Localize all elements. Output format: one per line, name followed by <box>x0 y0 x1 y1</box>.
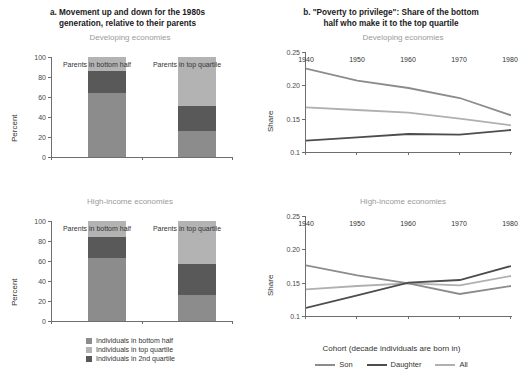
legend-label: Individuals in bottom half <box>96 337 173 344</box>
panel-b-developing-plot: 0.25 0.20 0.15 0.1 1940 1950 1960 1970 <box>306 52 511 152</box>
ytick-label: 0.25 <box>258 49 300 56</box>
bar-parents-top-quartile <box>178 57 216 157</box>
bar-segment-bottom-half <box>178 131 216 157</box>
ytick-label: 0 <box>0 154 46 161</box>
legend-label: All <box>459 360 467 369</box>
ytick-label: 0.20 <box>258 82 300 89</box>
bar-segment-2nd-quartile <box>178 106 216 131</box>
legend-label: Son <box>339 360 352 369</box>
xtick-mark <box>305 152 306 155</box>
xtick-mark <box>232 157 233 160</box>
panel-b-developing-subtitle: Developing economies <box>288 32 518 43</box>
panel-b-developing-lines <box>306 52 511 153</box>
legend-item-top-quartile: Individuals in top quartile <box>86 346 175 353</box>
ytick-mark <box>48 57 51 58</box>
ytick-label: 40 <box>0 278 46 285</box>
panel-a-title-line2: generation, relative to their parents <box>10 19 245 30</box>
bar-segment-bottom-half <box>178 295 216 321</box>
ytick-mark <box>302 119 305 120</box>
xtick-label: Parents in bottom half <box>63 61 131 68</box>
xtick-label: 1960 <box>400 220 416 227</box>
xtick-label: 1940 <box>298 56 314 63</box>
xtick-label: 1940 <box>298 220 314 227</box>
ytick-label: 20 <box>0 298 46 305</box>
xtick-mark <box>356 152 357 155</box>
bar-parents-top-quartile <box>178 221 216 321</box>
panel-a-highincome-subtitle: High-income economies <box>20 196 240 207</box>
ytick-mark <box>48 301 51 302</box>
bar-parents-bottom-half <box>88 221 126 321</box>
xtick-label: 1980 <box>502 56 518 63</box>
line-all <box>306 107 511 125</box>
xtick-label: 1950 <box>349 220 365 227</box>
panel-b-highincome-lines <box>306 216 511 317</box>
xtick-mark <box>51 157 52 160</box>
ytick-label: 60 <box>0 258 46 265</box>
panel-b-highincome-subtitle: High-income economies <box>288 196 518 207</box>
xtick-label: 1960 <box>400 56 416 63</box>
ytick-mark <box>48 117 51 118</box>
panel-b-title-line2: half who make it to the top quartile <box>262 19 520 30</box>
figure-root: a. Movement up and down for the 1980s ge… <box>0 0 525 383</box>
ytick-mark <box>48 97 51 98</box>
line-daughter <box>306 130 511 141</box>
xtick-label: Parents in top quartile <box>153 61 221 68</box>
ytick-label: 0.1 <box>258 313 300 320</box>
ytick-label: 100 <box>0 54 46 61</box>
panel-b-xaxis-title: Cohort (decade individuals are born in) <box>258 344 525 353</box>
bar-segment-2nd-quartile <box>88 237 126 258</box>
xtick-label: 1980 <box>502 220 518 227</box>
panel-a-highincome-plot: 100 80 60 40 20 0 Parents in bottom half… <box>52 221 232 321</box>
bar-segment-bottom-half <box>88 258 126 321</box>
ytick-mark <box>48 281 51 282</box>
panel-b-title: b. "Poverty to privilege": Share of the … <box>262 8 520 29</box>
xtick-mark <box>510 152 511 155</box>
panel-b-legend: Son Daughter All <box>258 360 525 369</box>
legend-swatch-icon <box>86 347 92 353</box>
xtick-label: Parents in bottom half <box>63 225 131 232</box>
ytick-mark <box>302 283 305 284</box>
xtick-mark <box>232 321 233 324</box>
xtick-mark <box>356 316 357 319</box>
ytick-label: 60 <box>0 94 46 101</box>
ytick-label: 0 <box>0 318 46 325</box>
ytick-mark <box>48 137 51 138</box>
legend-label: Individuals in top quartile <box>96 346 173 353</box>
legend-line-icon <box>315 364 335 366</box>
ytick-label: 0.25 <box>258 213 300 220</box>
bar-parents-bottom-half <box>88 57 126 157</box>
ytick-label: 80 <box>0 74 46 81</box>
panel-b-highincome-plot: 0.25 0.20 0.15 0.1 1940 1950 1960 1970 1… <box>306 216 511 316</box>
y-axis-line <box>51 57 52 158</box>
ytick-mark <box>302 52 305 53</box>
line-son <box>306 265 511 294</box>
xtick-label: 1970 <box>451 220 467 227</box>
bar-segment-2nd-quartile <box>178 264 216 295</box>
legend-label: Daughter <box>391 360 422 369</box>
legend-line-icon <box>435 364 455 366</box>
ytick-label: 20 <box>0 134 46 141</box>
ytick-label: 40 <box>0 114 46 121</box>
panel-a-title: a. Movement up and down for the 1980s ge… <box>10 8 245 29</box>
xtick-label: Parents in top quartile <box>153 225 221 232</box>
panel-a-developing: Developing economies Percent 100 80 60 4… <box>0 32 245 187</box>
ytick-mark <box>302 85 305 86</box>
legend-line-icon <box>367 364 387 366</box>
ytick-mark <box>302 216 305 217</box>
xtick-mark <box>510 316 511 319</box>
panel-b-highincome: High-income economies Share 0.25 0.20 0.… <box>258 196 525 351</box>
panel-a-legend: Individuals in bottom half Individuals i… <box>86 337 175 364</box>
panel-a-title-line1: a. Movement up and down for the 1980s <box>10 8 245 19</box>
legend-swatch-icon <box>86 338 92 344</box>
legend-item-all: All <box>435 360 467 369</box>
xtick-label: 1950 <box>349 56 365 63</box>
panel-b-title-line1: b. "Poverty to privilege": Share of the … <box>262 8 520 19</box>
legend-swatch-icon <box>86 356 92 362</box>
xtick-mark <box>408 152 409 155</box>
ytick-label: 0.15 <box>258 116 300 123</box>
xtick-mark <box>305 316 306 319</box>
legend-label: Individuals in 2nd quartile <box>96 355 175 362</box>
ytick-label: 0.20 <box>258 246 300 253</box>
legend-item-daughter: Daughter <box>367 360 422 369</box>
panel-a-highincome: High-income economies Percent 100 80 60 … <box>0 196 245 351</box>
